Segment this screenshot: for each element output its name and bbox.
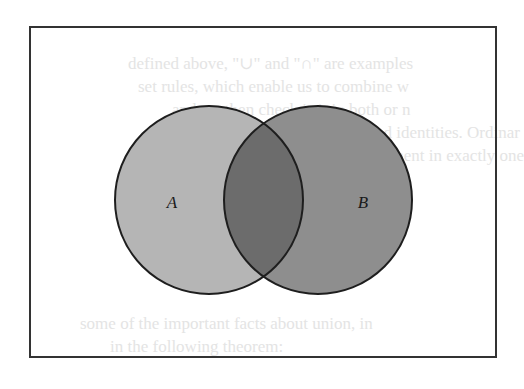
set-b-label: B bbox=[358, 193, 369, 212]
set-a-label: A bbox=[166, 193, 178, 212]
